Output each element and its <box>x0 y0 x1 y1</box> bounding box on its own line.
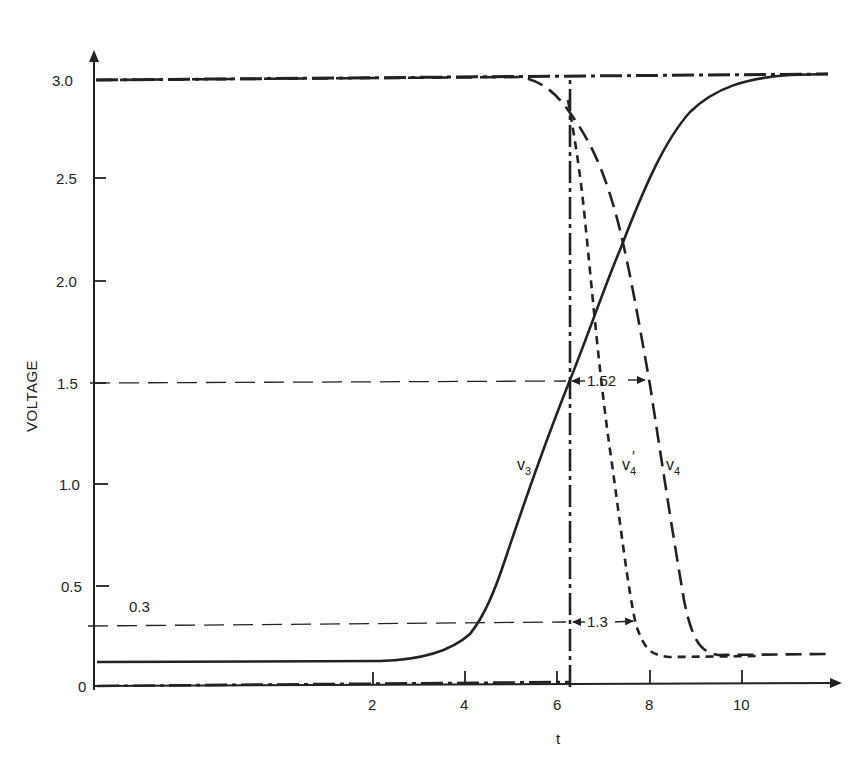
dimension-1-3: 1.3 <box>573 613 633 630</box>
ref-label-0-3: 0.3 <box>129 598 150 615</box>
y-tick-labels: 3.0 2.5 2.0 1.5 1.0 0.5 0 <box>52 72 86 695</box>
y-tick-label-0-5: 0.5 <box>61 578 82 595</box>
y-tick-label-1-0: 1.0 <box>59 476 80 493</box>
svg-text:v4: v4 <box>666 456 680 477</box>
y-axis-title: VOLTAGE <box>23 360 40 432</box>
y-tick-label-2-5: 2.5 <box>56 170 77 187</box>
dim-label-1-52: 1.52 <box>587 372 616 389</box>
svg-text:′: ′ <box>632 447 635 464</box>
y-tick-label-0: 0 <box>78 678 86 695</box>
x-tick-labels: 2 4 6 8 10 <box>368 696 750 713</box>
y-tick-label-1-5: 1.5 <box>57 375 78 392</box>
dim-label-1-3: 1.3 <box>587 613 608 630</box>
ref-line-0-3 <box>88 622 566 626</box>
svg-text:v3: v3 <box>517 456 531 477</box>
x-tick-label-4: 4 <box>460 696 468 713</box>
series-v4 <box>96 77 828 655</box>
x-tick-label-6: 6 <box>553 696 561 713</box>
y-ticks <box>94 178 109 586</box>
axes <box>94 52 840 690</box>
series-v3 <box>97 74 828 662</box>
curve-label-v4-prime: v4 ′ <box>622 447 636 477</box>
x-tick-label-2: 2 <box>368 696 376 713</box>
voltage-time-chart: 3.0 2.5 2.0 1.5 1.0 0.5 0 VOLTAGE 2 4 6 … <box>0 0 852 759</box>
y-tick-label-3-0: 3.0 <box>52 72 73 89</box>
x-tick-label-8: 8 <box>645 696 653 713</box>
y-tick-label-2-0: 2.0 <box>56 273 77 290</box>
x-axis-title: t <box>556 730 561 747</box>
ref-line-1-5 <box>90 381 566 383</box>
curve-label-v3: v3 <box>517 456 531 477</box>
series-input-step <box>96 74 828 687</box>
dimension-1-52: 1.52 <box>572 372 645 389</box>
x-tick-label-10: 10 <box>733 696 750 713</box>
curve-label-v4: v4 <box>666 456 680 477</box>
